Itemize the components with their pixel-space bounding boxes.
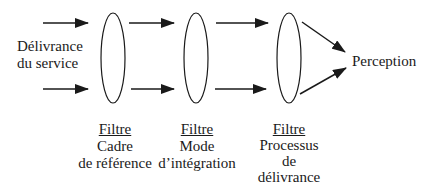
- input-label: Délivrance du service: [17, 38, 83, 72]
- filter-lens-1: [101, 13, 125, 103]
- arrow-to-perception-bottom: [300, 68, 346, 94]
- filter-caption-2: Filtre Mode d’intégration: [158, 121, 235, 172]
- filter-heading-2: Filtre: [158, 121, 235, 138]
- input-label-line-2: du service: [17, 55, 83, 72]
- filter-line: de: [258, 153, 320, 169]
- filter-line: Cadre: [78, 138, 152, 155]
- filter-line: d’intégration: [158, 155, 235, 172]
- input-label-line-1: Délivrance: [17, 38, 83, 55]
- filter-line: Mode: [158, 138, 235, 155]
- filter-caption-1: Filtre Cadre de référence: [78, 121, 152, 172]
- filter-line: délivrance: [258, 169, 320, 185]
- filter-heading-1: Filtre: [78, 121, 152, 138]
- arrow-to-perception-top: [302, 22, 345, 52]
- filter-lens-2: [184, 13, 208, 103]
- filter-line: Processus: [258, 137, 320, 153]
- filter-lens-3: [277, 13, 301, 103]
- filter-line: de référence: [78, 155, 152, 172]
- filter-caption-3: Filtre Processus de délivrance: [258, 121, 320, 185]
- output-label: Perception: [352, 53, 416, 70]
- filter-heading-3: Filtre: [258, 121, 320, 137]
